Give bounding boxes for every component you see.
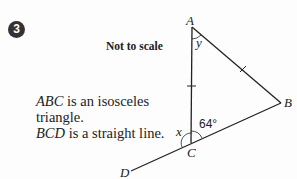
label-B: B <box>284 95 292 110</box>
angle-y-label: y <box>194 35 202 50</box>
label-C: C <box>187 145 196 160</box>
angle-x-label: x <box>175 124 182 139</box>
line-BCD <box>131 103 281 171</box>
label-D: D <box>119 165 130 179</box>
side-AC <box>191 27 192 143</box>
angle-arc-C-inner <box>191 131 202 138</box>
triangle-diagram: A B C D y 64° x <box>0 0 297 179</box>
label-A: A <box>185 13 194 28</box>
angle-64-label: 64° <box>199 117 217 131</box>
side-AB <box>192 27 281 103</box>
